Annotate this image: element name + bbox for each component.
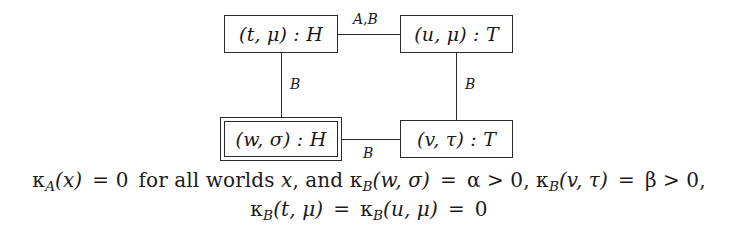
- kappa-b-tmu-equals: =: [333, 197, 350, 221]
- world-variable-x: x: [281, 168, 292, 192]
- kappa-a-equals-zero: = 0: [92, 168, 128, 192]
- caption: κA(x) = 0 for all worlds x, and κB(w, σ)…: [0, 166, 738, 224]
- caption-line-2: κB(t, μ) = κB(u, μ) = 0: [0, 195, 738, 224]
- kappa-b-umu-symbol: κ: [360, 197, 373, 221]
- kappa-b-umu-subscript: B: [373, 207, 383, 223]
- alpha-value: α: [467, 168, 481, 192]
- kappa-b-wsigma-symbol: κ: [350, 168, 363, 192]
- node-top-right: (u, μ) : T: [400, 15, 513, 53]
- node-bottom-right: (v, τ) : T: [400, 120, 513, 158]
- kappa-a-subscript: A: [45, 178, 55, 194]
- node-bottom-left-label: (w, σ) : H: [234, 130, 329, 149]
- edge-label-left-vertical: B: [289, 77, 301, 91]
- kappa-b-vtau-equals: =: [618, 168, 635, 192]
- kappa-a-symbol: κ: [32, 168, 45, 192]
- edge-top-horizontal: [338, 34, 400, 35]
- kappa-b-umu-zero-value: 0: [475, 197, 488, 221]
- node-top-left: (t, μ) : H: [224, 15, 338, 53]
- kappa-b-wsigma-argument: (w, σ): [373, 168, 430, 192]
- edge-bottom-horizontal: [342, 139, 400, 140]
- kappa-b-vtau-symbol: κ: [536, 168, 549, 192]
- kappa-b-vtau-subscript: B: [549, 178, 559, 194]
- kappa-b-tmu-argument: (t, μ): [273, 197, 323, 221]
- kappa-b-wsigma-equals: =: [440, 168, 457, 192]
- caption-line-1: κA(x) = 0 for all worlds x, and κB(w, σ)…: [0, 166, 738, 195]
- kappa-b-tmu-symbol: κ: [250, 197, 263, 221]
- beta-value: β: [645, 168, 657, 192]
- kappa-b-wsigma-subscript: B: [363, 178, 373, 194]
- kappa-b-tmu-subscript: B: [263, 207, 273, 223]
- kappa-b-vtau-argument: (v, τ): [559, 168, 608, 192]
- edge-right-vertical: [456, 53, 457, 120]
- edge-label-bottom-horizontal: B: [362, 146, 374, 160]
- node-bottom-left: (w, σ) : H: [220, 117, 342, 161]
- kappa-b-umu-argument: (u, μ): [383, 197, 438, 221]
- node-bottom-right-label: (v, τ) : T: [415, 130, 498, 149]
- edge-label-top-horizontal: A,B: [352, 12, 379, 26]
- kappa-b-umu-equals: =: [448, 197, 465, 221]
- edge-label-right-vertical: B: [464, 77, 476, 91]
- edge-left-vertical: [281, 53, 282, 117]
- alpha-greater-than-zero: > 0,: [487, 168, 530, 192]
- beta-greater-than-zero: > 0,: [663, 168, 706, 192]
- kappa-a-argument: (x): [55, 168, 82, 192]
- node-top-right-label: (u, μ) : T: [412, 25, 501, 44]
- comma-and-text: , and: [292, 168, 343, 192]
- node-bottom-left-inner-border: (w, σ) : H: [224, 121, 338, 157]
- for-all-worlds-text: for all worlds: [139, 168, 275, 192]
- node-top-left-label: (t, μ) : H: [237, 25, 325, 44]
